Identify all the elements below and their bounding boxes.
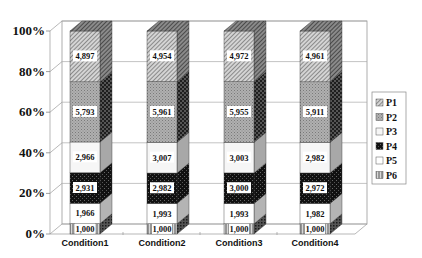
bar-condition4: 1,0001,9822,9722,9825,9114,961 [300,21,342,234]
segment-p1: 4,897 [70,21,112,82]
value-label: 2,966 [75,152,94,162]
legend-label: P2 [386,112,397,123]
bar-condition1: 1,0001,9662,9312,9665,7934,897 [70,21,112,234]
segment-p2: 5,955 [224,72,266,143]
y-tick-label: 20% [19,185,45,200]
category-label: Condition3 [216,238,263,248]
value-label: 5,793 [75,107,94,117]
legend-label: P3 [386,126,397,137]
value-label: 1,000 [75,224,94,234]
value-label: 4,897 [75,51,95,61]
value-label: 1,000 [305,224,324,234]
segment-p2: 5,961 [147,72,189,143]
category-label: Condition4 [292,238,339,248]
y-tick-label: 40% [19,145,45,160]
y-tick-label: 0% [26,226,46,241]
value-label: 3,007 [152,153,172,163]
legend-swatch [376,128,383,135]
value-label: 1,993 [229,209,248,219]
legend-swatch [376,157,383,164]
y-axis-labels: 0%20%40%60%80%100% [13,23,46,241]
value-label: 2,982 [152,183,171,193]
legend-swatch [376,99,383,106]
segment-p2: 5,793 [70,72,112,142]
legend-label: P6 [386,170,397,181]
value-label: 1,000 [229,224,248,234]
y-tick-label: 60% [19,104,45,119]
segment-p1: 4,954 [147,21,189,82]
value-label: 5,961 [152,107,171,117]
legend-label: P5 [386,155,397,166]
legend-label: P4 [386,141,397,152]
y-tick-label: 100% [13,23,46,38]
value-label: 2,931 [75,183,94,193]
legend-swatch [376,172,383,179]
value-label: 5,955 [229,107,248,117]
category-label: Condition2 [139,238,186,248]
segment-p1: 4,961 [300,21,342,82]
value-label: 2,982 [305,153,324,163]
bar-condition3: 1,0001,9933,0003,0035,9554,972 [224,21,266,234]
bar-condition2: 1,0001,9932,9823,0075,9614,954 [147,21,189,234]
legend-swatch [376,114,383,121]
value-label: 2,972 [305,183,324,193]
value-label: 1,966 [75,208,94,218]
legend-swatch [376,143,383,150]
value-label: 5,911 [306,107,325,117]
category-label: Condition1 [62,238,109,248]
value-label: 1,982 [305,209,324,219]
segment-p1: 4,972 [224,21,266,82]
value-label: 4,972 [229,51,248,61]
value-label: 3,003 [229,153,248,163]
value-label: 1,993 [152,209,171,219]
value-label: 4,961 [305,51,324,61]
value-label: 4,954 [152,51,172,61]
segment-p2: 5,911 [300,72,342,143]
legend-label: P1 [386,97,397,108]
value-label: 3,000 [229,183,248,193]
x-axis-labels: Condition1Condition2Condition3Condition4 [62,238,339,248]
stacked-bar-chart: 0%20%40%60%80%100% 1,0001,9662,9312,9665… [0,0,422,258]
value-label: 1,000 [152,224,171,234]
legend: P1P2P3P4P5P6 [372,92,406,184]
y-tick-label: 80% [19,64,45,79]
